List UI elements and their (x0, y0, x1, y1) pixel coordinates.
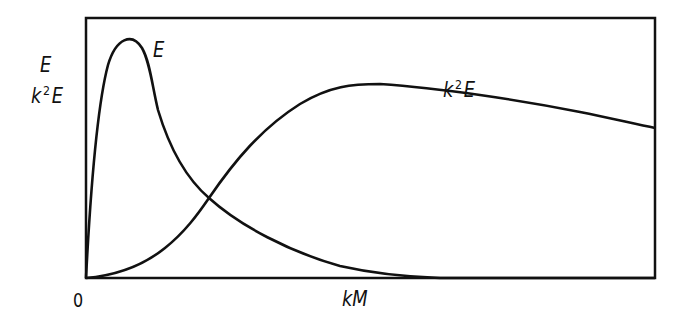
curve-label-k2E: k2E (443, 80, 475, 101)
y-axis-label-k2E: k2E (31, 86, 63, 107)
y-axis-label-E: E (40, 55, 51, 76)
x-axis-label: kM (342, 289, 368, 310)
curve-k2E (86, 84, 655, 278)
curve-label-E: E (153, 40, 164, 61)
plot-area (0, 0, 678, 326)
x-origin-tick: 0 (73, 290, 83, 310)
